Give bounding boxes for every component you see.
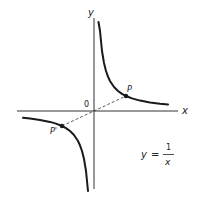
point-p-label: P — [127, 85, 132, 94]
equation-equals: = — [151, 149, 159, 160]
point-p — [124, 94, 128, 98]
y-axis-label: y — [87, 7, 95, 18]
x-axis-label: x — [181, 105, 188, 116]
equation-denominator: x — [164, 157, 171, 167]
equation-numerator: 1 — [166, 143, 171, 152]
curve-branch-first-quadrant — [99, 22, 169, 105]
point-p-prime — [60, 124, 64, 128]
origin-label: 0 — [84, 100, 89, 109]
equation-label: y = 1 x — [140, 143, 174, 167]
point-p-prime-label: P' — [50, 127, 57, 136]
equation-lhs: y — [140, 149, 148, 160]
hyperbola-diagram: y x 0 P P' y = 1 x — [0, 0, 197, 199]
